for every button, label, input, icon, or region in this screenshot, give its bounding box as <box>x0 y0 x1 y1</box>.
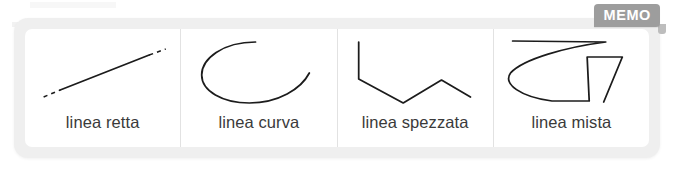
line-cell-linea-curva: linea curva <box>181 29 337 147</box>
dash-end-segment <box>149 49 166 55</box>
memo-tab-tail <box>658 24 666 34</box>
cell-label-linea-curva: linea curva <box>218 113 299 132</box>
line-cell-linea-spezzata: linea spezzata <box>338 29 494 147</box>
figure-mixed-line <box>494 29 649 107</box>
straight-core-segment <box>60 55 149 90</box>
cell-label-linea-spezzata: linea spezzata <box>362 113 469 132</box>
dash-start-segment <box>44 90 61 97</box>
cell-label-linea-retta: linea retta <box>66 113 140 132</box>
memo-frame: linea retta linea curva linea spezzata <box>14 18 660 158</box>
polyline-path <box>358 42 470 103</box>
figure-curved-line <box>181 29 336 107</box>
line-cell-linea-retta: linea retta <box>25 29 181 147</box>
curve-path <box>202 42 310 103</box>
line-cell-linea-mista: linea mista <box>494 29 649 147</box>
memo-badge: MEMO <box>594 4 660 27</box>
scan-artifact-top <box>30 2 116 8</box>
cell-label-linea-mista: linea mista <box>531 113 611 132</box>
mixed-path <box>508 41 622 102</box>
figure-broken-line <box>338 29 493 107</box>
figure-straight-line <box>25 29 180 107</box>
memo-card: linea retta linea curva linea spezzata <box>25 29 649 147</box>
